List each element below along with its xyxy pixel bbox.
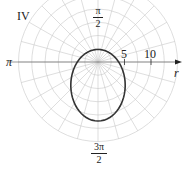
grid-spoke: [98, 62, 167, 102]
quadrant-label: IV: [17, 10, 30, 22]
angle-label-3pi-over-2: 3π 2: [91, 142, 107, 165]
denominator: 2: [97, 154, 102, 165]
denominator: 2: [96, 18, 101, 29]
numerator: 3π: [94, 141, 104, 152]
grid-spoke: [42, 62, 98, 118]
r-tick-label-5: 5: [121, 48, 127, 60]
grid-spoke: [42, 6, 98, 62]
grid-spoke: [29, 62, 98, 102]
grid-spoke: [29, 22, 98, 62]
angle-label-pi: π: [6, 56, 12, 68]
angle-label-pi-over-2: π 2: [93, 6, 103, 29]
r-tick-label-10: 10: [144, 48, 156, 60]
r-axis-arrowhead-icon: [175, 60, 182, 65]
numerator: π: [95, 5, 100, 16]
grid-spoke: [98, 22, 167, 62]
grid-spoke: [98, 62, 154, 118]
r-axis-label: r: [174, 67, 179, 79]
